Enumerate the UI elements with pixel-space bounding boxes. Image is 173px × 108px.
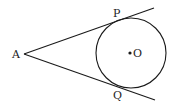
label-o: O: [133, 47, 142, 60]
center-point-o: [128, 51, 131, 54]
tangent-line-aq: [24, 54, 155, 100]
label-q: Q: [113, 89, 122, 102]
label-a: A: [11, 48, 21, 61]
geometry-diagram: A P O Q: [0, 0, 173, 108]
label-p: P: [113, 7, 121, 20]
